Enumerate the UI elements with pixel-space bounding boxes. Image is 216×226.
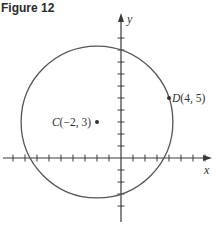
x-axis-label: x [203,163,210,177]
x-axis-arrow-icon [203,155,212,161]
y-axis-arrow-icon [118,13,124,22]
coordinate-plane: xy C(−2, 3)D(4, 5) [0,0,216,226]
point-d-label: D(4, 5) [171,92,205,105]
point-c-dot [95,120,99,124]
point-c-label: C(−2, 3) [52,116,91,129]
y-axis-label: y [126,12,133,26]
axes: xy [3,12,212,222]
points: C(−2, 3)D(4, 5) [52,92,205,129]
point-d-dot [167,96,171,100]
